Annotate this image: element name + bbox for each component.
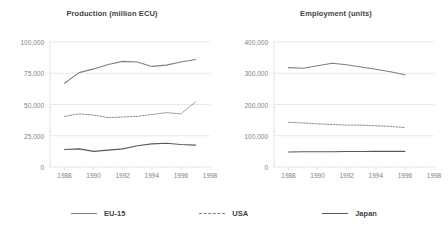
gridlines-employment: [274, 42, 434, 167]
chart-panel-employment: Employment (units) 400,000 300,000 200,0…: [224, 0, 448, 195]
chart-title-employment: Employment (units): [224, 9, 448, 18]
chart-legend: EU-15 USA Japan: [0, 203, 448, 223]
chart-title-production: Production (million ECU): [0, 9, 224, 18]
ytick-label-production-2: 50,000: [0, 101, 44, 108]
legend-swatch-usa: [199, 213, 225, 214]
legend-label-japan: Japan: [355, 209, 377, 218]
ticks-production: [50, 167, 210, 170]
dual-line-chart-figure: Production (million ECU) 100,000 75,000 …: [0, 0, 448, 231]
series-lines-employment: [289, 63, 405, 152]
ytick-label-employment-4: 400,000: [224, 39, 268, 46]
xtick-label-employment-5: 1998: [417, 172, 448, 179]
chart-panel-production: Production (million ECU) 100,000 75,000 …: [0, 0, 224, 195]
legend-swatch-japan: [322, 213, 348, 214]
legend-swatch-eu15: [71, 213, 97, 214]
ytick-label-employment-2: 200,000: [224, 101, 268, 108]
ytick-label-production-4: 100,000: [0, 39, 44, 46]
ytick-label-employment-3: 300,000: [224, 70, 268, 77]
plot-svg-employment: [274, 42, 434, 167]
plot-area-employment: [274, 42, 434, 167]
ytick-label-employment-1: 100,000: [224, 132, 268, 139]
ticks-employment: [274, 167, 434, 170]
ytick-label-production-3: 75,000: [0, 70, 44, 77]
legend-item-eu15[interactable]: EU-15: [71, 209, 125, 218]
ytick-label-production-0: 0: [0, 164, 44, 171]
ytick-label-production-1: 25,000: [0, 132, 44, 139]
xtick-label-production-5: 1998: [193, 172, 227, 179]
legend-item-usa[interactable]: USA: [199, 209, 248, 218]
legend-item-japan[interactable]: Japan: [322, 209, 377, 218]
legend-label-eu15: EU-15: [104, 209, 125, 218]
ytick-label-employment-0: 0: [224, 164, 268, 171]
plot-area-production: [50, 42, 210, 167]
plot-svg-production: [50, 42, 210, 167]
legend-label-usa: USA: [232, 209, 248, 218]
